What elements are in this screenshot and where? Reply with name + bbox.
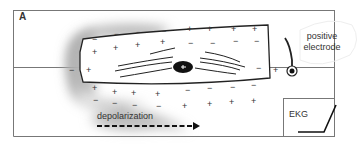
plus-sign: + xyxy=(273,65,278,75)
plus-sign: + xyxy=(251,96,256,106)
plus-sign: + xyxy=(112,87,117,97)
ekg-label: EKG xyxy=(289,109,308,119)
electrode-label-line1: positive xyxy=(299,31,345,42)
plus-sign: + xyxy=(207,99,212,109)
diagram-canvas xyxy=(0,0,363,150)
plus-sign: + xyxy=(229,97,234,107)
minus-sign: − xyxy=(156,101,161,111)
plus-sign: + xyxy=(113,43,118,53)
depolarization-label: depolarization xyxy=(97,111,153,121)
plus-sign: + xyxy=(187,24,192,34)
plus-sign: + xyxy=(207,24,212,34)
plus-sign: + xyxy=(135,40,140,50)
minus-sign: − xyxy=(256,63,261,73)
plus-sign: + xyxy=(231,24,236,34)
electrode-label: positive electrode xyxy=(299,31,345,53)
plus-sign: + xyxy=(252,24,257,34)
electrode-wire xyxy=(285,38,292,68)
minus-sign: − xyxy=(93,95,98,105)
plus-sign: + xyxy=(155,89,160,99)
minus-sign: − xyxy=(132,100,137,110)
plus-sign: + xyxy=(182,101,187,111)
minus-sign: − xyxy=(92,34,97,44)
minus-sign: − xyxy=(230,82,235,92)
minus-sign: − xyxy=(207,83,212,93)
minus-sign: − xyxy=(112,98,117,108)
plus-sign: + xyxy=(131,88,136,98)
minus-sign: − xyxy=(185,85,190,95)
minus-sign: − xyxy=(188,38,193,48)
electrode-label-line2: electrode xyxy=(299,42,345,53)
minus-sign: − xyxy=(210,38,215,48)
plus-sign: + xyxy=(86,65,91,75)
minus-sign: − xyxy=(69,65,74,75)
minus-sign: − xyxy=(233,36,238,46)
electrode-dot xyxy=(290,69,295,74)
panel-label: A xyxy=(19,11,26,22)
minus-sign: − xyxy=(136,27,141,37)
minus-sign: − xyxy=(251,80,256,90)
depolarization-arrow-head xyxy=(193,122,200,130)
minus-sign: − xyxy=(254,36,259,46)
plus-sign: + xyxy=(92,47,97,57)
plus-sign: + xyxy=(160,37,165,47)
plus-sign: + xyxy=(92,83,97,93)
minus-sign: − xyxy=(161,26,166,36)
minus-sign: − xyxy=(114,29,119,39)
